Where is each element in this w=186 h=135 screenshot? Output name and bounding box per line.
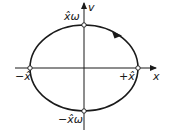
top-point-label: x̂ω (64, 11, 80, 22)
point-top (82, 23, 86, 27)
point-right (136, 66, 140, 70)
x-axis-label: x (153, 71, 160, 82)
direction-arrow-icon (112, 32, 122, 39)
left-point-label: −x̂ (15, 71, 31, 82)
bottom-point-label: −x̂ω (58, 114, 83, 125)
phase-diagram (0, 0, 186, 135)
right-point-label: +x̂ (119, 71, 135, 82)
v-axis-label: v (88, 2, 95, 13)
